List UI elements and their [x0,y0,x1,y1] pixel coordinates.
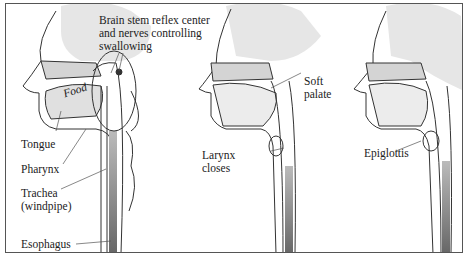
larynx-label: Larynx closes [202,149,235,175]
trachea-label: Trachea (windpipe) [21,187,71,213]
soft-palate-label: Soft palate [304,75,331,101]
larynx-line-1: Larynx [202,149,235,162]
brain-stem-line-3: swallowing [99,40,210,53]
soft-palate-line-1: Soft [304,75,331,88]
trachea-line-2: (windpipe) [21,200,71,213]
panel-2-head [199,4,321,253]
soft-palate-line-2: palate [304,88,331,101]
brain-stem-line-1: Brain stem reflex center [99,14,210,27]
tongue-label: Tongue [21,138,55,151]
panel-3-head [354,4,463,253]
epiglottis-label: Epiglottis [364,147,409,160]
brain-stem-label: Brain stem reflex center and nerves cont… [99,14,210,53]
pharynx-label: Pharynx [21,163,59,176]
swallowing-illustration [6,4,463,253]
esophagus-label: Esophagus [21,238,71,251]
brain-stem-line-2: and nerves controlling [99,27,210,40]
swallowing-diagram-frame: Brain stem reflex center and nerves cont… [5,3,463,253]
trachea-line-1: Trachea [21,187,71,200]
larynx-line-2: closes [202,162,235,175]
